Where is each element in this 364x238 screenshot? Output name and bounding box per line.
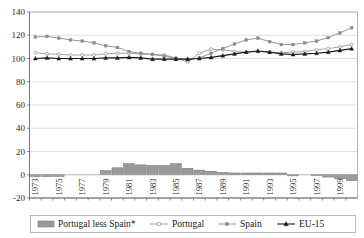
marker-1977 xyxy=(81,40,84,43)
legend-label: Portugal less Spain* xyxy=(58,219,136,229)
legend-circle-marker-icon xyxy=(157,222,161,226)
chart-legend: Portugal less Spain*PortugalSpainEU-15 xyxy=(31,216,356,233)
y-tick-label--20: -20 xyxy=(13,193,25,203)
legend-label: EU-15 xyxy=(299,219,325,229)
marker-1975 xyxy=(57,37,60,40)
bar-1983 xyxy=(147,165,158,174)
bar-1982 xyxy=(135,165,146,175)
x-tick-label-1991: 1991 xyxy=(241,179,251,196)
line-series-group xyxy=(33,26,353,63)
legend-label: Portugal xyxy=(172,219,205,229)
marker-1981 xyxy=(128,50,131,53)
marker-1997 xyxy=(315,40,318,43)
bar-1999 xyxy=(335,175,346,179)
marker-1973 xyxy=(34,51,37,54)
y-tick-label-120: 120 xyxy=(12,30,26,40)
marker-1988 xyxy=(210,52,213,55)
bar-1981 xyxy=(124,164,135,175)
bar-2000 xyxy=(346,175,357,181)
line-bar-combo-chart: -20020406080100120140 197319751977197919… xyxy=(0,0,364,238)
x-tick-label-1977: 1977 xyxy=(77,179,87,196)
marker-1974 xyxy=(46,52,49,55)
bar-1980 xyxy=(112,168,123,175)
y-tick-label-80: 80 xyxy=(16,77,26,87)
marker-1999 xyxy=(339,32,342,35)
marker-1983 xyxy=(151,53,154,56)
x-tick-label-1989: 1989 xyxy=(218,179,228,196)
x-tick-label-1975: 1975 xyxy=(54,179,64,196)
x-tick-label-1995: 1995 xyxy=(288,179,298,196)
x-axis-group: 1973197519771979198119831985198719891991… xyxy=(30,179,358,201)
marker-1991 xyxy=(245,39,248,42)
y-tick-label-100: 100 xyxy=(12,54,26,64)
chart-container: -20020406080100120140 197319751977197919… xyxy=(0,0,364,238)
y-tick-label-140: 140 xyxy=(12,7,26,17)
x-tick-label-1999: 1999 xyxy=(335,179,345,196)
marker-1980 xyxy=(116,46,119,49)
x-tick-label-1987: 1987 xyxy=(194,179,204,196)
x-tick-label-1997: 1997 xyxy=(312,179,322,196)
bar-1988 xyxy=(206,171,217,174)
y-tick-label-20: 20 xyxy=(16,147,26,157)
marker-1998 xyxy=(327,36,330,39)
legend-swatch-icon xyxy=(38,221,54,227)
x-tick-label-1985: 1985 xyxy=(171,179,181,196)
marker-1993 xyxy=(268,40,271,43)
marker-1980 xyxy=(116,52,119,55)
bar-series-portugal-less-spain xyxy=(30,164,358,181)
marker-2000 xyxy=(350,43,353,46)
bar-1985 xyxy=(171,164,182,175)
y-axis-group: -20020406080100120140 xyxy=(12,7,30,203)
legend-label: Spain xyxy=(240,219,262,229)
marker-1995 xyxy=(292,43,295,46)
marker-1992 xyxy=(257,37,260,40)
marker-1974 xyxy=(46,35,49,38)
marker-1976 xyxy=(69,39,72,42)
y-tick-label-0: 0 xyxy=(21,170,26,180)
y-tick-label-40: 40 xyxy=(16,123,26,133)
marker-1989 xyxy=(221,47,224,50)
bar-1986 xyxy=(182,168,193,174)
bar-1987 xyxy=(194,170,205,175)
x-tick-label-1973: 1973 xyxy=(30,179,40,196)
marker-2000 xyxy=(350,26,353,29)
legend-dot-marker-icon xyxy=(225,222,228,225)
marker-1978 xyxy=(93,41,96,44)
y-tick-label-60: 60 xyxy=(16,100,26,110)
marker-1996 xyxy=(303,41,306,44)
marker-1987 xyxy=(198,52,201,55)
bar-1979 xyxy=(100,171,111,175)
marker-1988 xyxy=(210,48,213,51)
marker-1990 xyxy=(233,43,236,46)
x-tick-label-1981: 1981 xyxy=(124,179,134,196)
marker-1979 xyxy=(104,52,107,55)
marker-1973 xyxy=(34,36,37,39)
marker-1979 xyxy=(104,44,107,47)
gridlines-group xyxy=(30,12,358,198)
marker-1982 xyxy=(139,52,142,55)
x-tick-label-1979: 1979 xyxy=(101,179,111,196)
bar-1984 xyxy=(159,165,170,174)
marker-1994 xyxy=(280,43,283,46)
x-tick-label-1993: 1993 xyxy=(265,179,275,196)
x-tick-label-1983: 1983 xyxy=(148,179,158,196)
marker-1975 xyxy=(57,53,60,56)
